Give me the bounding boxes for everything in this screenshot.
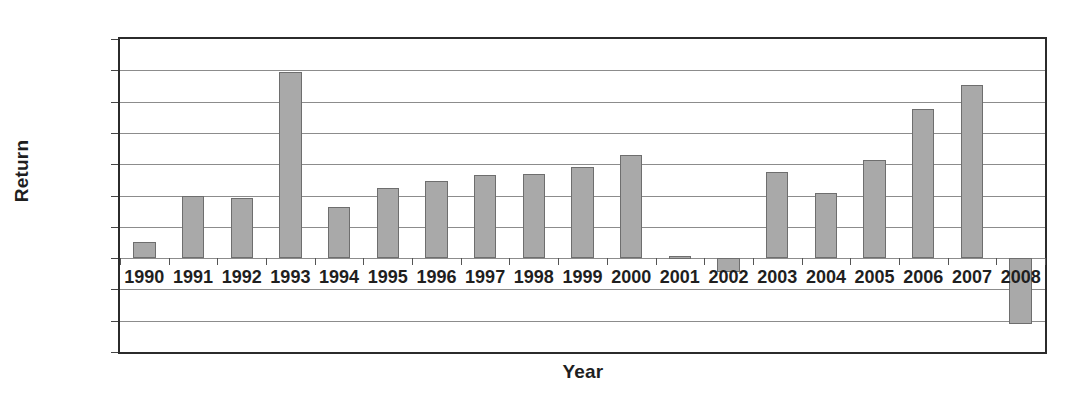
y-axis-tick-mark [111,133,118,134]
plot-area: 1990199119921993199419951996199719981999… [118,37,1047,354]
x-axis-tick-label: 1999 [558,267,607,287]
y-axis-tick-mark [111,70,118,71]
y-axis-tick-mark [111,258,118,259]
bar [523,174,545,258]
x-axis-tick-label: 1997 [461,267,510,287]
x-axis-tick-mark [802,258,803,265]
gridline [120,70,1045,71]
bar [133,242,155,258]
bar-chart-figure: Return 199019911992199319941995199619971… [0,0,1079,398]
y-axis-tick-mark [111,39,118,40]
x-axis-tick-mark [948,258,949,265]
x-axis-tick-label: 1998 [509,267,558,287]
x-axis-tick-mark [753,258,754,265]
x-axis-tick-label: 1995 [363,267,412,287]
y-axis-tick-mark [111,227,118,228]
bar [328,207,350,258]
gridline [120,133,1045,134]
bar [474,175,496,258]
gridline [120,164,1045,165]
y-axis-tick-mark [111,321,118,322]
x-axis-tick-label: 1990 [120,267,169,287]
x-axis-tick-label: 2006 [899,267,948,287]
bar [182,196,204,259]
bar [912,109,934,258]
x-axis-tick-mark [899,258,900,265]
x-axis-tick-mark [169,258,170,265]
x-axis-tick-mark [996,258,997,265]
y-axis-title: Return [11,116,33,226]
x-axis-tick-label: 1991 [169,267,218,287]
y-axis-tick-mark [111,352,118,353]
x-axis-tick-label: 2001 [656,267,705,287]
bar [669,256,691,259]
x-axis-tick-label: 1996 [412,267,461,287]
bar [571,167,593,258]
x-axis-tick-mark [412,258,413,265]
bar [425,181,447,258]
gridline [120,102,1045,103]
x-axis-tick-mark [266,258,267,265]
x-axis-tick-label: 1994 [315,267,364,287]
x-axis-tick-label: 2007 [948,267,997,287]
bar [815,193,837,258]
x-axis-tick-mark [607,258,608,265]
x-axis-tick-label: 2002 [704,267,753,287]
x-axis-tick-label: 1992 [217,267,266,287]
x-axis-tick-label: 1993 [266,267,315,287]
x-axis-tick-label: 2000 [607,267,656,287]
bar [377,188,399,258]
x-axis-tick-mark [120,258,121,265]
x-axis-tick-label: 2004 [802,267,851,287]
x-axis-tick-label: 2005 [850,267,899,287]
x-axis-tick-label: 2008 [996,267,1045,287]
bar [279,72,301,258]
x-axis-tick-mark [656,258,657,265]
bar [961,85,983,258]
x-axis-tick-mark [850,258,851,265]
gridline [120,289,1045,290]
y-axis-tick-mark [111,164,118,165]
x-axis-title: Year [118,361,1048,383]
bar [231,198,253,258]
bar [620,155,642,258]
x-axis-tick-mark [363,258,364,265]
gridline [120,321,1045,322]
bar [766,172,788,258]
x-axis-tick-mark [217,258,218,265]
y-axis-tick-mark [111,102,118,103]
zero-line [120,258,1045,259]
y-axis-tick-mark [111,196,118,197]
x-axis-tick-mark [461,258,462,265]
x-axis-tick-mark [704,258,705,265]
x-axis-tick-label: 2003 [753,267,802,287]
y-axis-tick-mark [111,289,118,290]
bar [863,160,885,258]
x-axis-tick-mark [315,258,316,265]
x-axis-tick-mark [509,258,510,265]
x-axis-tick-mark [1045,258,1046,265]
x-axis-tick-mark [558,258,559,265]
